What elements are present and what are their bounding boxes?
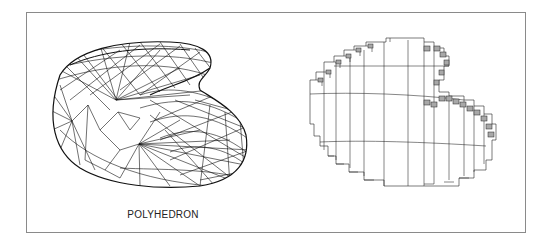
voxel-panel: VOXEL MODEL	[274, 0, 548, 247]
voxel-model-figure	[274, 0, 548, 247]
polyhedron-caption: POLYHEDRON	[103, 209, 223, 220]
polyhedron-panel: POLYHEDRON	[0, 0, 274, 247]
